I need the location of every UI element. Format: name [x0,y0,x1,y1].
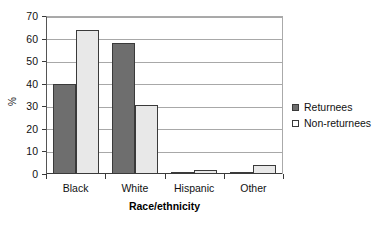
x-category-label: White [105,182,164,194]
legend-label: Non-returnees [304,118,371,129]
x-tick-mark [283,174,284,179]
bar-white-returnees [112,43,135,174]
x-tick-mark [165,174,166,179]
x-axis-labels: BlackWhiteHispanicOther [46,182,283,194]
legend-label: Returnees [304,102,352,113]
y-tick-label: 30 [4,101,38,112]
y-tick-mark [42,16,46,17]
bar-black-non-returnees [76,30,99,174]
x-axis-title: Race/ethnicity [46,200,283,212]
x-category-label: Other [224,182,283,194]
x-category-label: Black [46,182,105,194]
legend-swatch-icon [292,104,299,111]
y-tick-label: 70 [4,11,38,22]
bar-chart: % 706050403020100 BlackWhiteHispanicOthe… [0,0,382,229]
y-tick-label: 60 [4,34,38,45]
y-tick-label: 40 [4,79,38,90]
bar-group [106,17,165,174]
legend-entry[interactable]: Non-returnees [292,115,371,131]
plot-area [46,16,283,174]
x-category-label: Hispanic [165,182,224,194]
y-tick-mark [42,84,46,85]
bar-white-non-returnees [135,105,158,174]
bar-black-returnees [53,84,76,174]
legend-swatch-icon [292,120,299,127]
x-tick-mark [224,174,225,179]
y-tick-mark [42,151,46,152]
y-tick-mark [42,61,46,62]
y-tick-label: 0 [4,169,38,180]
x-tick-mark [105,174,106,179]
y-tick-mark [42,39,46,40]
y-tick-label: 50 [4,56,38,67]
legend-entry[interactable]: Returnees [292,99,371,115]
y-tick-label: 20 [4,124,38,135]
y-tick-mark [42,106,46,107]
bar-group [223,17,282,174]
bar-group [165,17,224,174]
bar-groups [47,17,282,174]
legend: ReturneesNon-returnees [292,99,371,131]
bar-group [47,17,106,174]
y-tick-label: 10 [4,146,38,157]
y-tick-mark [42,129,46,130]
x-tick-mark [46,174,47,179]
